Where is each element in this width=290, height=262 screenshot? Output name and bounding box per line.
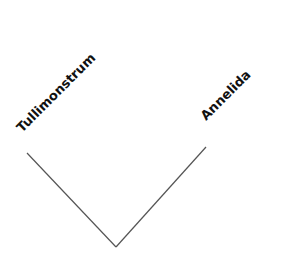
branch-annelida	[116, 147, 206, 247]
taxon-label-annelida: Annelida	[198, 67, 254, 123]
branch-tullimonstrum	[27, 153, 116, 247]
cladogram: Tullimonstrum Annelida	[0, 0, 290, 262]
taxon-label-tullimonstrum: Tullimonstrum	[14, 50, 99, 135]
